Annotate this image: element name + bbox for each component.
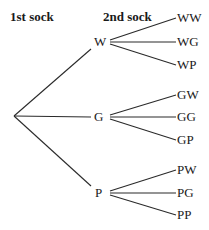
branch-w-ww [110,18,176,40]
leaf-wg: WG [177,35,199,49]
node-w: W [94,35,106,49]
branch-root-g [14,116,91,117]
node-p: P [95,186,102,200]
leaf-ww: WW [177,11,202,25]
branch-g-gw [110,95,176,115]
branch-root-p [14,116,91,186]
leaf-pw: PW [177,163,197,177]
branch-p-pp [110,195,176,215]
node-g: G [94,110,103,124]
leaf-pp: PP [177,208,191,222]
leaf-gp: GP [177,133,194,147]
leaf-pg: PG [177,186,194,200]
branch-root-w [14,49,91,116]
branch-p-pw [110,170,176,191]
branch-w-wp [110,44,176,65]
leaf-wp: WP [177,58,197,72]
leaf-gw: GW [177,88,199,102]
branch-g-gp [110,119,176,140]
leaf-gg: GG [177,110,196,124]
